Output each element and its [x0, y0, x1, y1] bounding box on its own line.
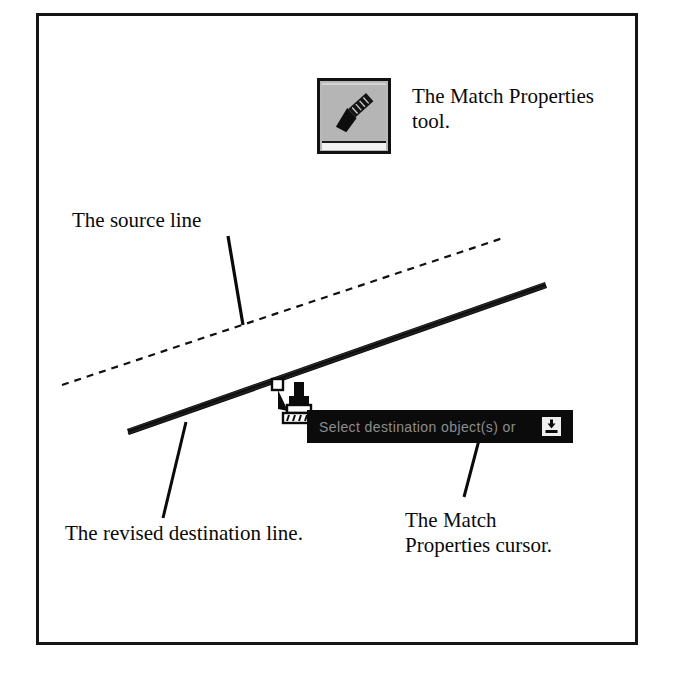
- paintbrush-icon: [328, 89, 384, 143]
- pickbox-square: [272, 379, 283, 390]
- revised-destination-line-label: The revised destination line.: [65, 521, 365, 546]
- match-properties-tool-button[interactable]: [317, 78, 391, 154]
- match-properties-tool-caption: The Match Properties tool.: [412, 84, 627, 134]
- command-prompt-tooltip[interactable]: Select destination object(s) or: [307, 410, 573, 443]
- match-properties-cursor-label: The Match Properties cursor.: [405, 508, 615, 558]
- source-line-label: The source line: [72, 208, 312, 233]
- tool-button-shelf: [322, 141, 386, 150]
- dropdown-arrow-icon[interactable]: [542, 417, 561, 436]
- command-prompt-text: Select destination object(s) or: [307, 419, 542, 435]
